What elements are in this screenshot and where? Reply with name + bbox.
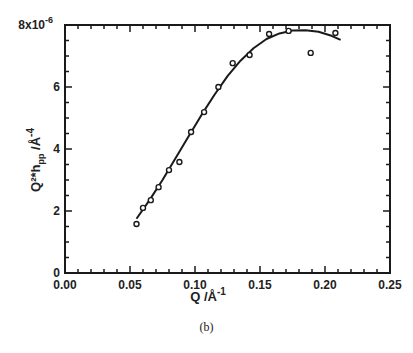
data-point bbox=[134, 222, 139, 227]
axis-tick-labels: 0.000.050.100.150.200.2502468x10-6 bbox=[18, 15, 402, 292]
x-axis-title: Q /Å-1 bbox=[190, 286, 226, 304]
svg-text:2: 2 bbox=[53, 204, 60, 218]
data-point bbox=[230, 61, 235, 66]
svg-text:Q²*hpp /Å-4: Q²*hpp /Å-4 bbox=[25, 128, 46, 192]
data-point bbox=[156, 185, 161, 190]
data-point bbox=[286, 28, 291, 33]
data-point bbox=[333, 31, 338, 36]
data-point bbox=[177, 160, 182, 165]
y-axis-title: Q²*hpp /Å-4 bbox=[25, 128, 46, 192]
chart: 0.000.050.100.150.200.2502468x10-6 Q /Å-… bbox=[0, 0, 413, 353]
svg-text:0.25: 0.25 bbox=[378, 278, 402, 292]
svg-text:6: 6 bbox=[53, 80, 60, 94]
data-point bbox=[267, 31, 272, 36]
svg-text:0: 0 bbox=[53, 266, 60, 280]
data-points bbox=[134, 28, 338, 226]
data-point bbox=[247, 53, 252, 58]
data-point bbox=[141, 205, 146, 210]
plot-frame bbox=[65, 25, 390, 273]
data-point bbox=[216, 85, 221, 90]
svg-text:0.15: 0.15 bbox=[248, 278, 272, 292]
svg-text:0.20: 0.20 bbox=[313, 278, 337, 292]
svg-text:8x10-6: 8x10-6 bbox=[18, 15, 53, 32]
svg-text:4: 4 bbox=[53, 142, 60, 156]
data-point bbox=[148, 198, 153, 203]
svg-text:0.05: 0.05 bbox=[118, 278, 142, 292]
svg-text:0.00: 0.00 bbox=[53, 278, 77, 292]
data-point bbox=[308, 50, 313, 55]
data-point bbox=[167, 168, 172, 173]
axis-ticks bbox=[65, 25, 390, 273]
figure-caption: (b) bbox=[0, 320, 413, 335]
fit-curve bbox=[137, 30, 341, 219]
data-point bbox=[202, 110, 207, 115]
svg-text:Q /Å-1: Q /Å-1 bbox=[190, 286, 226, 304]
data-point bbox=[189, 129, 194, 134]
